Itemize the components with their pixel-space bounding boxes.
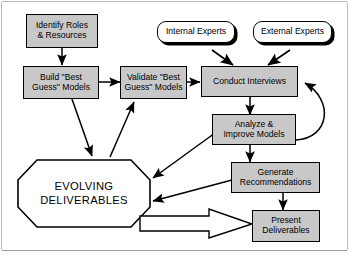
node-generate-recommendations-line2: Recommendations	[240, 178, 312, 188]
edge-generate-evolving-double	[153, 180, 232, 201]
node-present-deliverables[interactable]: Present Deliverables	[252, 210, 320, 242]
node-analyze-models[interactable]: Analyze & Improve Models	[212, 114, 296, 145]
node-internal-experts-label: Internal Experts	[166, 27, 226, 36]
node-evolving-deliverables[interactable]: EVOLVING DELIVERABLES	[18, 160, 150, 227]
node-conduct-interviews-label: Conduct Interviews	[213, 77, 286, 87]
node-identify-roles[interactable]: Identify Roles & Resources	[26, 14, 98, 48]
edge-analyze-to-conduct-feedback	[296, 83, 324, 140]
node-internal-experts[interactable]: Internal Experts	[157, 21, 235, 43]
edge-external-to-conduct	[268, 50, 290, 65]
node-validate-models-line2: Guess" Models	[125, 83, 183, 93]
flowchart-canvas: Identify Roles & Resources Build "Best G…	[0, 0, 349, 257]
node-identify-roles-line2: & Resources	[36, 31, 88, 41]
edge-build-to-evolving	[72, 99, 92, 156]
node-present-deliverables-line2: Deliverables	[262, 226, 309, 236]
node-conduct-interviews[interactable]: Conduct Interviews	[201, 66, 298, 97]
node-evolving-deliverables-line2: DELIVERABLES	[40, 194, 128, 207]
edge-evolving-to-validate	[110, 102, 134, 157]
edge-analyze-evolving-double	[153, 133, 215, 178]
node-validate-models[interactable]: Validate "Best Guess" Models	[120, 66, 187, 99]
edge-internal-to-conduct	[212, 50, 233, 65]
node-build-models-line2: Guess" Models	[32, 83, 90, 93]
node-build-models[interactable]: Build "Best Guess" Models	[23, 66, 99, 99]
edge-evolving-to-present-block-arrow	[140, 209, 252, 238]
node-external-experts-label: External Experts	[261, 27, 324, 36]
node-external-experts[interactable]: External Experts	[253, 21, 332, 43]
node-evolving-deliverables-line1: EVOLVING	[40, 180, 128, 193]
node-analyze-models-line2: Improve Models	[223, 130, 284, 140]
node-generate-recommendations[interactable]: Generate Recommendations	[231, 162, 320, 193]
